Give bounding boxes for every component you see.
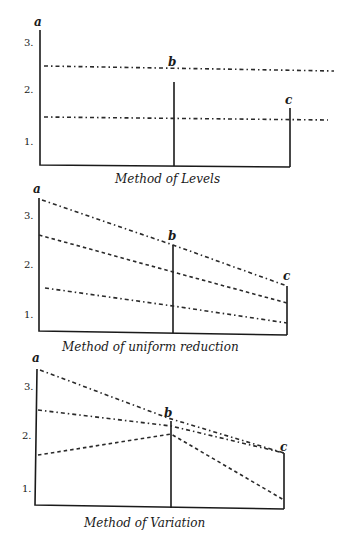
- reduction-line-upper: [42, 200, 287, 286]
- variation-line-upper: [40, 370, 284, 453]
- point-label-a: a: [34, 15, 42, 29]
- point-label-b: b: [168, 229, 176, 243]
- y-tick-2: 2.: [24, 84, 34, 95]
- y-tick-3: 3.: [24, 210, 34, 221]
- level-line-upper: [44, 66, 334, 71]
- caption: Method of Variation: [83, 516, 205, 530]
- y-tick-2: 2.: [24, 259, 34, 270]
- axis-frame: [35, 369, 284, 509]
- caption: Method of uniform reduction: [61, 340, 239, 354]
- panel-method-of-variation: a 3. 2. 1. b c Method of Variation: [22, 351, 288, 530]
- y-tick-3: 3.: [24, 37, 34, 48]
- y-tick-1: 1.: [24, 309, 34, 320]
- axis-frame: [39, 198, 287, 335]
- level-line-lower: [44, 117, 328, 120]
- point-label-b: b: [164, 406, 172, 420]
- variation-line-lower: [38, 434, 284, 500]
- point-label-a: a: [32, 351, 40, 365]
- diagram-canvas: a 3. 2. 1. b c Method of Levels a 3. 2. …: [0, 0, 344, 548]
- caption: Method of Levels: [114, 172, 220, 186]
- point-label-b: b: [168, 55, 176, 69]
- point-label-a: a: [33, 182, 41, 196]
- y-tick-1: 1.: [24, 136, 34, 147]
- reduction-line-middle: [39, 235, 287, 303]
- axis-frame: [40, 30, 290, 167]
- reduction-line-lower: [45, 288, 287, 323]
- y-tick-2: 2.: [22, 430, 32, 441]
- y-tick-3: 3.: [24, 381, 34, 392]
- point-label-c: c: [280, 440, 288, 454]
- y-tick-1: 1.: [22, 483, 32, 494]
- variation-line-middle: [38, 410, 284, 453]
- point-label-c: c: [283, 269, 291, 283]
- panel-method-of-levels: a 3. 2. 1. b c Method of Levels: [24, 15, 334, 186]
- panel-method-of-uniform-reduction: a 3. 2. 1. b c Method of uniform reducti…: [24, 182, 291, 354]
- point-label-c: c: [285, 93, 293, 107]
